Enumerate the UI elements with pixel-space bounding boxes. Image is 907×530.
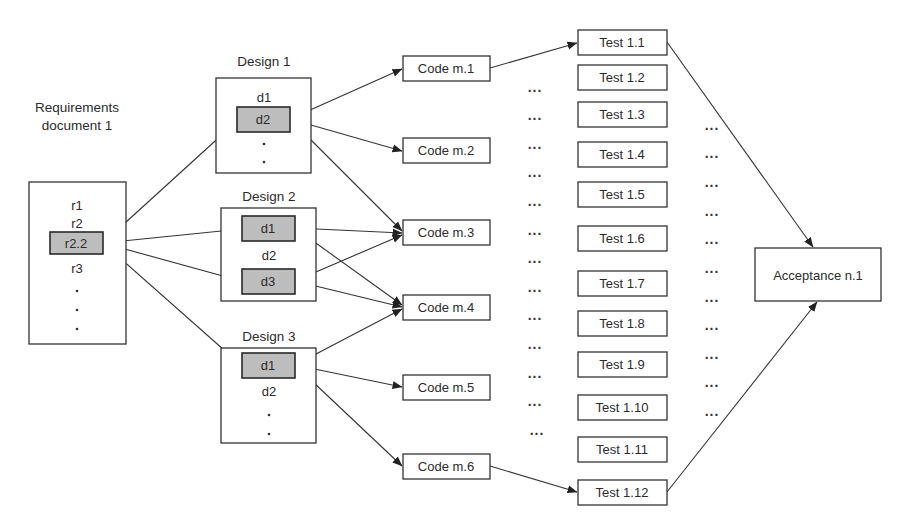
ellipsis: ... [705,317,720,333]
continuation-dot [76,290,79,293]
ellipsis: ... [528,79,543,95]
continuation-dot [76,309,79,312]
design-1-item-d2: d2 [256,112,270,127]
code-label-m4: Code m.4 [418,300,474,315]
test-label-1.12: Test 1.12 [596,485,649,500]
ellipsis: ... [530,422,545,438]
ellipsis: ... [528,279,543,295]
edge-test-1.1-to-acceptance [667,42,813,247]
ellipsis: ... [528,193,543,209]
ellipsis-column-1: ... ... ... ... ... ... ... ... ... ... … [528,79,545,438]
continuation-dot [268,414,271,417]
design-2: Design 2 d1 d2 d3 [221,189,316,302]
test-label-1.11: Test 1.11 [596,442,648,457]
ellipsis: ... [705,289,720,305]
requirements-title-line1: Requirements [35,100,119,115]
traceability-diagram: Requirements document 1 r1 r2 r2.2 r3 De… [0,0,907,530]
ellipsis: ... [528,107,543,123]
requirements-document: Requirements document 1 r1 r2 r2.2 r3 [29,100,126,345]
test-label-1.2: Test 1.2 [599,70,645,85]
ellipsis: ... [705,117,720,133]
test-label-1.8: Test 1.8 [599,316,645,331]
code-column: Code m.1 Code m.2 Code m.3 Code m.4 Code… [403,56,490,479]
ellipsis: ... [528,393,543,409]
test-label-1.10: Test 1.10 [596,400,649,415]
design-1: Design 1 d1 d2 [216,54,311,174]
design-3-title: Design 3 [242,329,295,344]
design-2-item-d1: d1 [261,221,275,236]
edge-code-m6-to-test-1.12 [490,466,577,492]
edge-code-m1-to-test-1.1 [490,43,577,68]
ellipsis: ... [528,336,543,352]
test-label-1.7: Test 1.7 [599,276,645,291]
continuation-dot [76,328,79,331]
ellipsis: ... [528,307,543,323]
design-2-item-d3: d3 [261,274,275,289]
design-1-title: Design 1 [237,54,290,69]
ellipsis-column-2: ... ... ... ... ... ... ... ... ... ... … [705,117,720,419]
requirement-item-r2.2: r2.2 [65,236,87,251]
requirements-title-line2: document 1 [42,118,113,133]
design-3-item-d1: d1 [261,358,275,373]
design-1-item-d1: d1 [257,90,271,105]
code-label-m3: Code m.3 [418,225,474,240]
requirement-item-r3: r3 [71,261,83,276]
test-column: Test 1.1 Test 1.2 Test 1.3 Test 1.4 Test… [578,30,667,505]
code-label-m5: Code m.5 [418,380,474,395]
design-2-item-d2: d2 [262,248,276,263]
ellipsis: ... [705,231,720,247]
ellipsis: ... [528,136,543,152]
test-label-1.3: Test 1.3 [599,107,645,122]
ellipsis: ... [705,403,720,419]
test-label-1.1: Test 1.1 [599,35,645,50]
test-label-1.4: Test 1.4 [599,147,645,162]
continuation-dot [263,161,266,164]
acceptance: Acceptance n.1 [755,248,881,301]
ellipsis: ... [705,346,720,362]
code-label-m6: Code m.6 [418,459,474,474]
ellipsis: ... [528,365,543,381]
ellipsis: ... [528,164,543,180]
ellipsis: ... [705,145,720,161]
test-label-1.9: Test 1.9 [599,357,645,372]
ellipsis: ... [528,222,543,238]
requirement-item-r1: r1 [71,198,83,213]
requirement-item-r2: r2 [71,216,83,231]
design-3: Design 3 d1 d2 [221,329,316,444]
ellipsis: ... [705,260,720,276]
acceptance-label: Acceptance n.1 [773,268,863,283]
code-label-m2: Code m.2 [418,143,474,158]
continuation-dot [268,433,271,436]
ellipsis: ... [705,203,720,219]
ellipsis: ... [705,374,720,390]
code-label-m1: Code m.1 [418,61,474,76]
design-2-title: Design 2 [242,189,295,204]
ellipsis: ... [705,174,720,190]
design-3-item-d2: d2 [262,384,276,399]
edge-test-1.12-to-acceptance [667,302,817,492]
test-label-1.6: Test 1.6 [599,231,645,246]
continuation-dot [263,143,266,146]
test-label-1.5: Test 1.5 [599,187,645,202]
ellipsis: ... [528,250,543,266]
